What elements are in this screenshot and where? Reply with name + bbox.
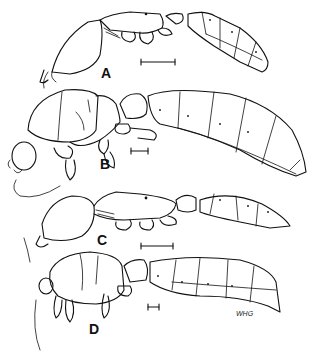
panel-label-d: D: [89, 321, 99, 337]
figure-plate: A B C D WHG: [0, 0, 319, 360]
specimen-b-drawing: [8, 90, 306, 197]
specimen-d-drawing: [35, 252, 280, 350]
drawings: [0, 0, 319, 360]
specimen-a-drawing: [40, 12, 268, 88]
panel-label-b: B: [100, 156, 110, 172]
panel-label-a: A: [101, 65, 111, 81]
panel-label-c: C: [97, 232, 107, 248]
specimen-c-drawing: [24, 192, 290, 262]
artist-signature: WHG: [236, 310, 253, 317]
